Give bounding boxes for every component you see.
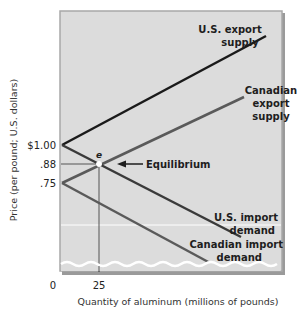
us-export-label-2: supply bbox=[221, 37, 259, 48]
canadian-import-label-1: Canadian import bbox=[190, 239, 284, 250]
y-tick-0-88: .88 bbox=[40, 159, 56, 170]
chart: e Equilibrium U.S. export supply Canadia… bbox=[0, 0, 308, 309]
y-tick-0-75: .75 bbox=[40, 178, 56, 189]
canadian-export-label-3: supply bbox=[252, 111, 290, 122]
y-tick-1-00: $1.00 bbox=[27, 140, 56, 151]
x-tick-25: 25 bbox=[93, 280, 106, 291]
canadian-import-label-2: demand bbox=[217, 252, 262, 263]
x-tick-0: 0 bbox=[50, 280, 56, 291]
us-export-label-1: U.S. export bbox=[198, 24, 262, 35]
x-axis-title: Quantity of aluminum (millions of pounds… bbox=[77, 296, 278, 307]
us-import-label-2: demand bbox=[230, 225, 275, 236]
equilibrium-point bbox=[97, 162, 102, 167]
canadian-export-label-1: Canadian bbox=[245, 85, 297, 96]
equilibrium-label: Equilibrium bbox=[146, 159, 210, 170]
canadian-export-label-2: export bbox=[253, 98, 290, 109]
us-import-label-1: U.S. import bbox=[214, 212, 278, 223]
point-e-label: e bbox=[96, 150, 102, 160]
y-axis-title: Price (per pound; U.S. dollars) bbox=[8, 79, 19, 221]
